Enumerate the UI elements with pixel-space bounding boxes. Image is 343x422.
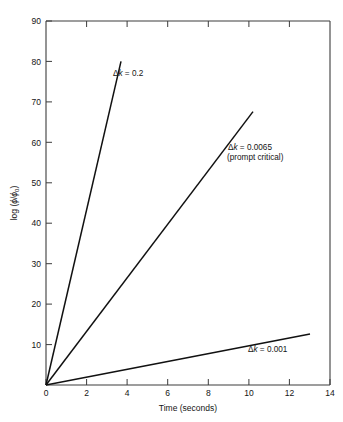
y-tick-label: 60 xyxy=(32,138,42,148)
x-tick-labels: 0 2 4 6 8 10 12 14 xyxy=(44,388,335,398)
x-tick-label: 10 xyxy=(244,388,254,398)
reactor-period-line-chart: 90 80 70 60 50 40 30 20 10 0 2 4 6 8 10 … xyxy=(0,0,343,422)
annotation-delta-k-0-2: Δk = 0.2 xyxy=(113,69,144,78)
y-tick-label: 90 xyxy=(32,16,42,26)
y-tick-label: 80 xyxy=(32,57,42,67)
svg-text:log (ϕ/ϕ0): log (ϕ/ϕ0) xyxy=(9,186,20,221)
y-tick-labels: 90 80 70 60 50 40 30 20 10 xyxy=(32,16,42,350)
y-tick-label: 50 xyxy=(32,178,42,188)
data-series xyxy=(46,61,310,385)
annotation-equals-value: = 0.0065 xyxy=(238,143,273,152)
x-tick-label: 12 xyxy=(285,388,295,398)
annotation-equals-value: = 0.2 xyxy=(123,69,144,78)
y-tick-label: 20 xyxy=(32,299,42,309)
annotation-prompt-critical-note: (prompt critical) xyxy=(227,153,284,162)
x-tick-label: 0 xyxy=(44,388,49,398)
x-tick-label: 4 xyxy=(125,388,130,398)
y-tick-label: 30 xyxy=(32,259,42,269)
annotation-equals-value: = 0.001 xyxy=(258,345,288,354)
x-axis-title: Time (seconds) xyxy=(159,403,217,413)
y-axis-title-prefix: log ( xyxy=(9,204,19,221)
series-line-delta-k-0-001 xyxy=(46,334,310,385)
x-tick-marks-top xyxy=(87,21,290,27)
annotation-delta-k-0-001: Δk = 0.001 xyxy=(248,345,288,354)
y-tick-label: 70 xyxy=(32,97,42,107)
chart-figure: 90 80 70 60 50 40 30 20 10 0 2 4 6 8 10 … xyxy=(0,0,343,422)
x-tick-label: 2 xyxy=(84,388,89,398)
y-axis-title-suffix: ) xyxy=(9,186,19,189)
y-axis-title: log (ϕ/ϕ0) xyxy=(9,186,20,221)
y-tick-label: 10 xyxy=(32,340,42,350)
x-tick-marks xyxy=(46,379,330,385)
x-tick-label: 8 xyxy=(206,388,211,398)
y-tick-label: 40 xyxy=(32,218,42,228)
annotation-delta-k-0-0065: Δk = 0.0065 xyxy=(228,143,272,152)
x-tick-label: 6 xyxy=(165,388,170,398)
x-tick-label: 14 xyxy=(325,388,335,398)
y-tick-marks xyxy=(46,21,52,345)
